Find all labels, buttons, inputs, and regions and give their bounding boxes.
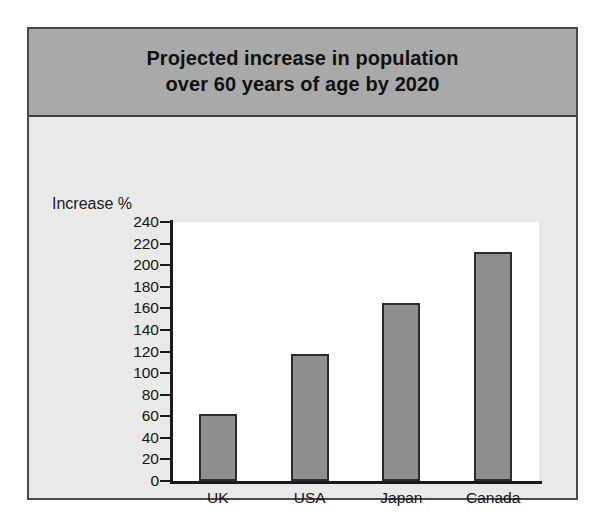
page-title: Projected increase in population over 60… — [146, 46, 458, 97]
y-axis-tick-label: 240 — [59, 213, 159, 231]
y-axis-tick — [160, 415, 171, 417]
y-axis-tick — [160, 458, 171, 460]
y-axis-tick — [160, 480, 171, 482]
y-axis-tick-label: 0 — [59, 472, 159, 490]
y-axis-tick — [160, 437, 171, 439]
y-axis-tick-label: 80 — [59, 386, 159, 404]
bar-canada — [474, 252, 512, 481]
chart-figure-frame: Projected increase in population over 60… — [27, 27, 578, 500]
x-axis-line — [170, 481, 542, 484]
y-axis-tick-label: 60 — [59, 407, 159, 425]
bar-uk — [199, 414, 237, 481]
y-axis-tick-label: 200 — [59, 256, 159, 274]
y-axis-tick-label: 20 — [59, 450, 159, 468]
chart-plot-container: Increase % 02040608010012014016018020022… — [29, 119, 576, 498]
x-axis-tick-label-canada: Canada — [466, 489, 520, 507]
y-axis-tick — [160, 307, 171, 309]
y-axis-tick-label: 100 — [59, 364, 159, 382]
y-axis-tick-label: 180 — [59, 278, 159, 296]
bar-japan — [382, 303, 420, 481]
y-axis-tick — [160, 221, 171, 223]
y-axis-tick-labels: 020406080100120140160180200220240 — [49, 119, 159, 498]
chart-title-banner: Projected increase in population over 60… — [29, 29, 576, 117]
y-axis-tick-label: 40 — [59, 429, 159, 447]
x-axis-tick-label-usa: USA — [294, 489, 326, 507]
y-axis-tick-label: 220 — [59, 235, 159, 253]
x-axis-tick-label-japan: Japan — [380, 489, 422, 507]
y-axis-tick — [160, 372, 171, 374]
y-axis-tick-label: 120 — [59, 343, 159, 361]
y-axis-tick — [160, 286, 171, 288]
y-axis-tick — [160, 243, 171, 245]
y-axis-tick-label: 140 — [59, 321, 159, 339]
y-axis-tick — [160, 329, 171, 331]
y-axis-tick — [160, 394, 171, 396]
y-axis-tick — [160, 264, 171, 266]
y-axis-tick — [160, 351, 171, 353]
x-axis-tick-label-uk: UK — [207, 489, 229, 507]
y-axis-tick-label: 160 — [59, 299, 159, 317]
bar-usa — [291, 354, 329, 481]
